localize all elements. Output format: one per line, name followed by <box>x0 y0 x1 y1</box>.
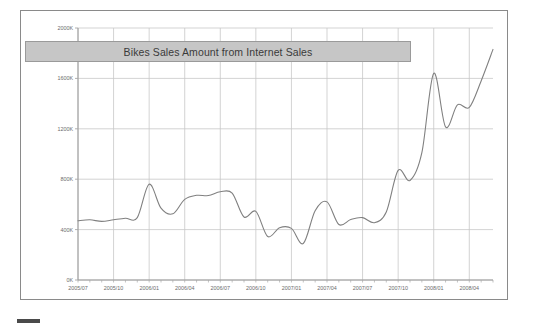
y-axis-tick-label: 0K <box>66 277 73 283</box>
y-axis-tick-labels: 0K400K800K1200K1600K2000K <box>57 25 73 283</box>
x-axis-tick-label: 2008/04 <box>460 285 480 291</box>
x-axis-tick-label: 2007/07 <box>353 285 373 291</box>
x-axis-tick-label: 2007/10 <box>388 285 408 291</box>
report-frame: 0K400K800K1200K1600K2000K 2005/072005/10… <box>20 10 508 300</box>
y-axis-tick-label: 1600K <box>57 75 73 81</box>
y-axis-tick-label: 800K <box>60 176 73 182</box>
x-axis-tick-label: 2005/10 <box>104 285 124 291</box>
x-axis-tick-label: 2008/01 <box>424 285 444 291</box>
x-axis-tick-label: 2007/04 <box>317 285 337 291</box>
x-axis-tick-label: 2006/04 <box>175 285 195 291</box>
x-axis-tick-label: 2007/01 <box>282 285 302 291</box>
x-axis-tick-label: 2006/10 <box>246 285 266 291</box>
resize-handle[interactable] <box>17 319 40 323</box>
page-title: Bikes Sales Amount from Internet Sales <box>124 46 313 58</box>
y-axis-tick-label: 1200K <box>57 126 73 132</box>
x-axis-tick-label: 2006/07 <box>211 285 231 291</box>
y-axis-tick-label: 2000K <box>57 25 73 31</box>
x-axis-tick-labels: 2005/072005/102006/012006/042006/072006/… <box>68 285 479 291</box>
x-axis-tick-label: 2005/07 <box>68 285 88 291</box>
x-axis-tick-label: 2006/01 <box>139 285 159 291</box>
plot-background <box>78 28 493 280</box>
chart-title-banner: Bikes Sales Amount from Internet Sales <box>25 41 411 62</box>
y-axis-tick-label: 400K <box>60 227 73 233</box>
